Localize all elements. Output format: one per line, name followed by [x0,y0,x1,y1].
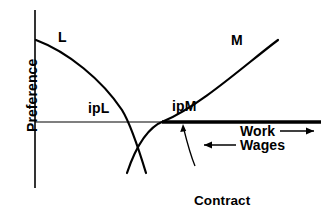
curve-m-path [127,40,278,173]
region-label-ipm: ipM [172,99,196,114]
work-arrow-icon [280,128,314,135]
contract-curve-callout: Contract Curve [194,166,250,205]
contract-curve-callout-line1: Contract [194,194,250,205]
curve-label-l: L [58,30,67,45]
curve-label-m: M [231,33,243,48]
region-label-ipl: ipL [88,101,109,116]
wages-arrow-icon [204,142,236,149]
y-axis-label: Preference [25,40,40,150]
preference-work-wages-figure: Preference L M ipL ipM Work Wages Contra… [0,0,325,205]
figure-canvas [0,0,325,205]
contract-curve-leader-icon [180,124,195,166]
direction-label-wages: Wages [240,138,285,153]
